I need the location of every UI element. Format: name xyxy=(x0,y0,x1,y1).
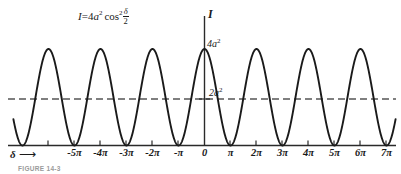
x-tick-label: 0 xyxy=(202,147,207,158)
peak-value-exponent: 2 xyxy=(217,37,221,45)
y-axis-label: I xyxy=(208,8,213,20)
x-tick-label: 7π xyxy=(381,147,392,158)
x-tick-label: 3π xyxy=(277,147,288,158)
x-tick-label: π xyxy=(228,147,234,158)
figure-container: I=4a2cos2δ2 I 4a2 2a2 δ⟶ -5π-4π-3π-2π-π0… xyxy=(0,0,401,174)
mean-value-exponent: 2 xyxy=(219,86,223,94)
x-tick-label: 6π xyxy=(355,147,366,158)
equation-function: cos xyxy=(102,10,119,22)
x-tick-label: -5π xyxy=(67,147,81,158)
equation-argument-denominator: 2 xyxy=(123,17,129,26)
intensity-plot xyxy=(0,0,401,174)
figure-caption: FIGURE 14-3 xyxy=(18,166,61,173)
equation-argument-fraction: δ2 xyxy=(123,7,129,25)
delta-axis-annotation: δ⟶ xyxy=(10,148,36,160)
x-tick-label: -4π xyxy=(93,147,107,158)
delta-symbol: δ xyxy=(10,148,16,160)
mean-value-base: 2a xyxy=(209,87,219,98)
x-tick-label: 5π xyxy=(329,147,340,158)
x-tick-label: 4π xyxy=(303,147,314,158)
x-tick-label: -3π xyxy=(119,147,133,158)
equation-label: I=4a2cos2δ2 xyxy=(78,7,129,25)
delta-arrow-icon: ⟶ xyxy=(16,147,36,161)
mean-value-label: 2a2 xyxy=(209,87,223,98)
x-tick-label: -2π xyxy=(145,147,159,158)
x-tick-label: 2π xyxy=(251,147,262,158)
peak-value-label: 4a2 xyxy=(207,38,221,49)
x-tick-label: -π xyxy=(174,147,183,158)
peak-value-base: 4a xyxy=(207,38,217,49)
